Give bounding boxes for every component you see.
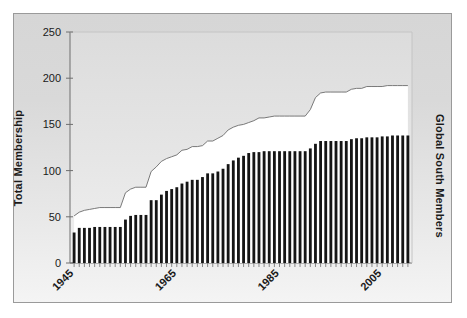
x-tick-label: 1965 <box>152 267 178 293</box>
bar <box>324 141 327 263</box>
bar <box>304 151 307 263</box>
membership-chart: 050100150200250 1945196519852005 <box>13 13 452 303</box>
bar <box>78 228 81 263</box>
y-tick-label: 150 <box>43 118 61 130</box>
bar <box>232 160 235 263</box>
y-tick-label: 100 <box>43 165 61 177</box>
bar <box>345 141 348 263</box>
y-axis-tick-labels: 050100150200250 <box>43 26 61 269</box>
bar <box>155 200 158 263</box>
bar <box>186 182 189 263</box>
bar <box>381 136 384 263</box>
bar <box>391 135 394 263</box>
bar <box>145 215 148 263</box>
bar <box>196 180 199 263</box>
bar <box>314 144 317 263</box>
bar <box>278 151 281 263</box>
bar <box>329 141 332 263</box>
x-tick-label: 1945 <box>50 267 76 293</box>
bar <box>216 172 219 263</box>
bar <box>206 173 209 263</box>
bar <box>319 141 322 263</box>
bar <box>365 137 368 263</box>
bar <box>376 137 379 263</box>
bar <box>309 148 312 263</box>
bar <box>83 228 86 263</box>
bar <box>396 135 399 263</box>
bar <box>371 137 374 263</box>
bar <box>170 189 173 263</box>
bar <box>335 141 338 263</box>
bar <box>386 136 389 263</box>
bar <box>242 156 245 263</box>
bar <box>191 180 194 263</box>
bar <box>124 220 127 263</box>
bar <box>273 151 276 263</box>
bar <box>237 158 240 263</box>
chart-figure: 050100150200250 1945196519852005 Total M… <box>0 0 467 318</box>
x-axis-ticks <box>74 263 408 267</box>
bar <box>268 151 271 263</box>
y-tick-label: 250 <box>43 26 61 38</box>
bar <box>73 233 76 263</box>
bar <box>88 228 91 263</box>
bar <box>227 164 230 263</box>
x-axis-tick-labels: 1945196519852005 <box>50 267 384 293</box>
y-axis-title-left: Total Membership <box>12 88 24 228</box>
bar <box>129 216 132 263</box>
bar <box>134 215 137 263</box>
bar <box>263 151 266 263</box>
bar <box>299 151 302 263</box>
bar <box>247 153 250 263</box>
y-tick-label: 0 <box>55 257 61 269</box>
bar <box>288 151 291 263</box>
bar <box>222 169 225 263</box>
bar <box>175 187 178 263</box>
bar <box>340 141 343 263</box>
bar <box>98 227 101 263</box>
bar <box>283 151 286 263</box>
bar <box>109 227 112 263</box>
bar <box>350 139 353 263</box>
bar <box>181 184 184 263</box>
bar <box>401 135 404 263</box>
y-axis-title-right: Global South Members <box>434 106 446 246</box>
bar <box>201 177 204 263</box>
x-tick-label: 1985 <box>255 267 281 293</box>
bar <box>114 227 117 263</box>
bar <box>211 173 214 263</box>
y-tick-label: 200 <box>43 72 61 84</box>
bar <box>252 152 255 263</box>
bar <box>139 215 142 263</box>
bar <box>119 227 122 263</box>
bar <box>360 138 363 263</box>
bar <box>406 135 409 263</box>
bar <box>165 191 168 263</box>
bar <box>160 195 163 263</box>
bar <box>355 138 358 263</box>
bar <box>294 151 297 263</box>
y-tick-label: 50 <box>49 211 61 223</box>
bar <box>150 200 153 263</box>
bar <box>93 227 96 263</box>
x-tick-label: 2005 <box>358 267 384 293</box>
bar <box>104 227 107 263</box>
bar <box>258 152 261 263</box>
